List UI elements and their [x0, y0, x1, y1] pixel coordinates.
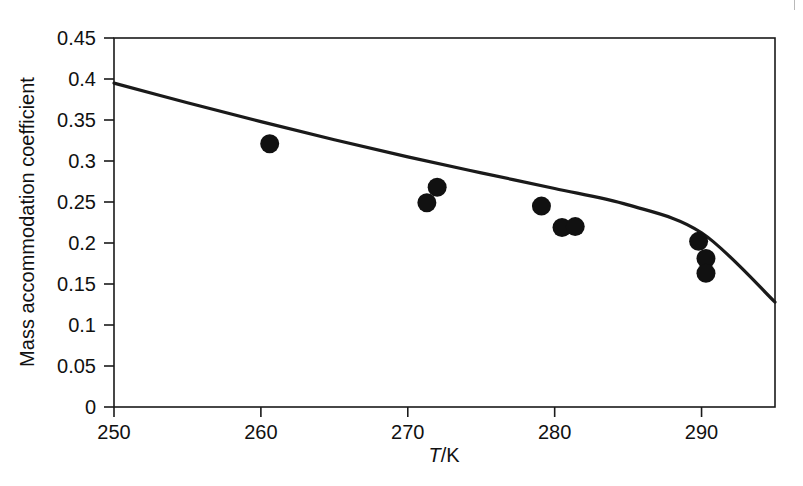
- y-tick-label: 0.05: [57, 355, 96, 377]
- y-tick-label: 0.4: [68, 68, 96, 90]
- y-tick-label: 0: [85, 396, 96, 418]
- x-tick-label: 270: [391, 421, 424, 443]
- x-tick-label: 260: [244, 421, 277, 443]
- y-tick-label: 0.2: [68, 232, 96, 254]
- x-tick-label: 250: [97, 421, 130, 443]
- y-axis-tick-labels: 00.050.10.150.20.250.30.350.40.45: [57, 27, 96, 418]
- x-axis-title: T/K: [428, 444, 460, 466]
- data-point-marker: [532, 197, 551, 216]
- x-axis-tick-labels: 250260270280290: [97, 421, 718, 443]
- data-point-marker: [260, 134, 279, 153]
- y-tick-label: 0.35: [57, 109, 96, 131]
- data-point-marker: [696, 264, 715, 283]
- y-tick-label: 0.25: [57, 191, 96, 213]
- x-tick-label: 280: [538, 421, 571, 443]
- data-point-marker: [417, 193, 436, 212]
- chart-figure: 250260270280290 00.050.10.150.20.250.30.…: [0, 0, 803, 486]
- y-tick-label: 0.15: [57, 273, 96, 295]
- x-axis-title-unit: /K: [441, 444, 461, 466]
- scatter-plot: 250260270280290 00.050.10.150.20.250.30.…: [0, 0, 803, 486]
- y-tick-label: 0.1: [68, 314, 96, 336]
- data-point-marker: [566, 217, 585, 236]
- y-axis-title: Mass accommodation coefficient: [16, 77, 38, 367]
- y-tick-label: 0.3: [68, 150, 96, 172]
- plot-frame: [114, 38, 775, 407]
- x-tick-label: 290: [685, 421, 718, 443]
- y-tick-label: 0.45: [57, 27, 96, 49]
- data-point-marker: [689, 232, 708, 251]
- y-axis-ticks: [104, 38, 114, 407]
- data-points: [260, 134, 715, 283]
- data-point-marker: [428, 178, 447, 197]
- x-axis-ticks: [114, 407, 702, 417]
